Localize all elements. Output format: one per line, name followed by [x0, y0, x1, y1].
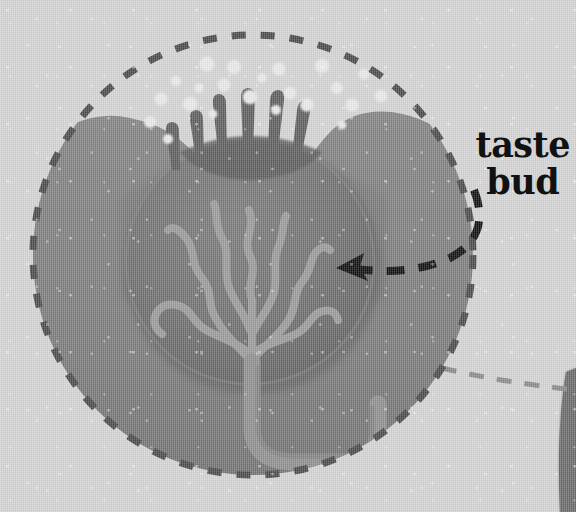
- callout-leader-line: [442, 368, 576, 390]
- taste-bud-diagram: [0, 0, 576, 512]
- callout-contents: [10, 57, 496, 512]
- illustration-canvas: taste bud: [0, 0, 576, 512]
- taste-bud-label: taste bud: [476, 126, 571, 200]
